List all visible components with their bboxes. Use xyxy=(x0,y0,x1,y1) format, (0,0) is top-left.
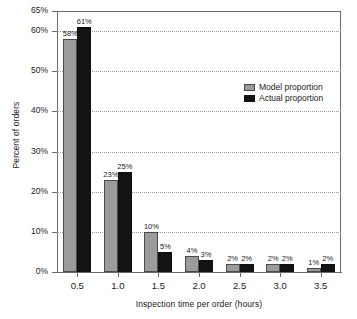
y-axis-tick xyxy=(52,232,57,233)
plot-area xyxy=(57,11,341,272)
legend-swatch-model-icon xyxy=(244,84,255,91)
x-axis-tick-label: 2.5 xyxy=(220,280,260,291)
bar-model-3.0 xyxy=(266,264,280,272)
x-axis-tick xyxy=(321,272,322,277)
bar-actual-1.5 xyxy=(158,252,172,272)
legend-label-model: Model proportion xyxy=(259,82,323,93)
bar-value-label: 61% xyxy=(67,18,101,26)
gridline xyxy=(57,71,341,72)
y-axis-tick xyxy=(52,71,57,72)
legend-item-actual: Actual proportion xyxy=(244,93,323,104)
bar-actual-3.0 xyxy=(280,264,294,272)
y-axis-tick xyxy=(52,111,57,112)
x-axis-tick-label: 3.5 xyxy=(301,280,341,291)
x-axis-tick-label: 2.0 xyxy=(179,280,219,291)
bar-actual-1.0 xyxy=(118,172,132,272)
gridline xyxy=(57,111,341,112)
bar-value-label: 25% xyxy=(108,163,142,171)
y-axis-tick xyxy=(52,272,57,273)
gridline xyxy=(57,152,341,153)
y-axis-tick-label: 0% xyxy=(8,267,48,276)
y-axis-title: Percent of orders xyxy=(11,75,21,195)
x-axis-tick-label: 1.0 xyxy=(98,280,138,291)
x-axis-tick xyxy=(158,272,159,277)
y-axis-tick-label: 20% xyxy=(8,187,48,196)
y-axis-tick-label: 40% xyxy=(8,106,48,115)
y-axis-tick-label: 50% xyxy=(8,66,48,75)
y-axis-tick-label: 10% xyxy=(8,227,48,236)
legend-label-actual: Actual proportion xyxy=(259,93,323,104)
bar-actual-2.5 xyxy=(240,264,254,272)
bar-model-1.5 xyxy=(144,232,158,272)
bar-value-label: 2% xyxy=(311,255,345,263)
gridline xyxy=(57,31,341,32)
y-axis-tick xyxy=(52,11,57,12)
x-axis-tick xyxy=(118,272,119,277)
legend-swatch-actual-icon xyxy=(244,95,255,102)
bar-chart: Percent of orders 0%10%20%30%40%50%60%65… xyxy=(0,0,357,319)
bar-model-1.0 xyxy=(104,180,118,272)
bar-value-label: 10% xyxy=(134,223,168,231)
x-axis-title: Inspection time per order (hours) xyxy=(57,299,341,309)
bar-actual-2.0 xyxy=(199,260,213,272)
x-axis-tick xyxy=(77,272,78,277)
y-axis-tick-label: 65% xyxy=(8,6,48,15)
y-axis-tick-label: 30% xyxy=(8,147,48,156)
legend: Model proportion Actual proportion xyxy=(244,82,323,104)
x-axis-tick-label: 0.5 xyxy=(57,280,97,291)
x-axis-tick-label: 1.5 xyxy=(138,280,178,291)
bar-model-3.5 xyxy=(307,268,321,272)
x-axis-tick xyxy=(240,272,241,277)
bar-actual-3.5 xyxy=(321,264,335,272)
bar-model-0.5 xyxy=(63,39,77,272)
x-axis-tick-label: 3.0 xyxy=(260,280,300,291)
bar-actual-0.5 xyxy=(77,27,91,272)
y-axis-tick xyxy=(52,152,57,153)
y-axis-tick-label: 60% xyxy=(8,26,48,35)
x-axis-tick xyxy=(199,272,200,277)
legend-item-model: Model proportion xyxy=(244,82,323,93)
gridline xyxy=(57,232,341,233)
y-axis-tick xyxy=(52,192,57,193)
x-axis-tick xyxy=(280,272,281,277)
bar-model-2.5 xyxy=(226,264,240,272)
gridline xyxy=(57,192,341,193)
